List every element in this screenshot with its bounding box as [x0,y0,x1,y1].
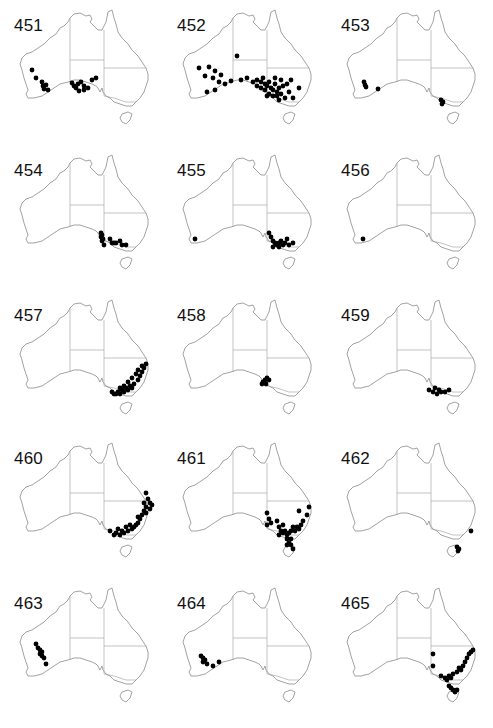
occurrence-dot [207,65,212,70]
occurrence-dot [364,85,369,90]
occurrence-dot [265,511,270,516]
occurrence-dot [116,527,121,532]
occurrence-dot [144,491,149,496]
occurrence-dot [457,666,462,671]
occurrence-dot [431,652,436,657]
occurrence-dot [34,76,39,81]
map-panel-454: 454 [0,145,160,290]
tasmania-coastline [283,112,295,124]
map-panel-458: 458 [163,290,323,435]
occurrence-dot [447,388,452,393]
occurrence-dot [46,88,51,93]
occurrence-dots [361,237,366,242]
occurrence-dot [86,86,91,91]
occurrence-dot [255,84,260,89]
occurrence-dot [445,678,450,683]
occurrence-dot [261,76,266,81]
occurrence-dot [42,656,47,661]
occurrence-dot [108,529,113,534]
panel-label: 451 [14,16,43,36]
occurrence-dot [275,94,280,99]
occurrence-dot [291,96,296,101]
occurrence-dot [136,378,141,383]
tasmania-coastline [283,402,295,414]
occurrence-dot [42,87,47,92]
map-panel-459: 459 [327,290,487,435]
panel-label: 452 [177,16,206,36]
occurrence-dot [267,80,272,85]
map-panel-462: 462 [327,433,487,578]
tasmania-coastline [447,112,459,124]
occurrence-dot [40,80,45,85]
occurrence-dot [273,82,278,87]
panel-label: 464 [177,594,206,614]
occurrence-dot [203,74,208,79]
occurrence-dot [219,73,224,78]
occurrence-dot [239,78,244,83]
occurrence-dot [285,237,290,242]
occurrence-dot [275,519,280,524]
panel-label: 462 [341,449,370,469]
occurrence-dot [447,684,452,689]
map-panel-460: 460 [0,433,160,578]
panel-label: 454 [14,161,43,181]
occurrence-dot [130,376,135,381]
occurrence-dot [211,664,216,669]
map-panel-451: 451 [0,0,160,145]
occurrence-dot [144,511,149,516]
occurrence-dot [120,388,125,393]
occurrence-dot [148,507,153,512]
occurrence-dot [124,243,129,248]
occurrence-dot [205,90,210,95]
occurrence-dot [205,662,210,667]
map-panel-456: 456 [327,145,487,290]
panel-label: 456 [341,161,370,181]
tasmania-coastline [120,402,132,414]
occurrence-dot [44,662,49,667]
occurrence-dot [128,523,133,528]
occurrence-dot [269,521,274,526]
occurrence-dot [297,509,302,514]
occurrence-dot [287,90,292,95]
panel-label: 459 [341,306,370,326]
occurrence-dot [193,237,198,242]
occurrence-dot [136,515,141,520]
panel-label: 453 [341,16,370,36]
occurrence-dot [94,76,99,81]
occurrence-dot [217,80,222,85]
occurrence-dot [289,537,294,542]
occurrence-dot [30,68,35,73]
map-panel-463: 463 [0,578,160,723]
occurrence-dot [455,688,460,693]
occurrence-dot [79,80,84,85]
map-panel-465: 465 [327,578,487,723]
occurrence-dot [307,505,312,510]
panel-label: 458 [177,306,206,326]
occurrence-dot [440,102,445,107]
occurrence-dot [291,241,296,246]
tasmania-coastline [447,257,459,269]
panel-label: 465 [341,594,370,614]
occurrence-dot [437,388,442,393]
panel-label: 460 [14,449,43,469]
tasmania-coastline [283,690,295,702]
map-panel-461: 461 [163,433,323,578]
map-panel-453: 453 [327,0,487,145]
panel-label: 461 [177,449,206,469]
occurrence-dot [136,368,141,373]
occurrence-dot [267,378,272,383]
occurrence-dot [289,78,294,83]
panel-label: 457 [14,306,43,326]
occurrence-dot [283,96,288,101]
tasmania-coastline [120,690,132,702]
occurrence-dot [361,237,366,242]
tasmania-coastline [120,112,132,124]
map-panel-457: 457 [0,290,160,435]
occurrence-dot [229,79,234,84]
occurrence-dot [273,76,278,81]
occurrence-dot [213,88,218,93]
occurrence-dot [271,245,276,250]
occurrence-dot [260,382,265,387]
occurrence-dot [265,94,270,99]
occurrence-dot [456,549,461,554]
